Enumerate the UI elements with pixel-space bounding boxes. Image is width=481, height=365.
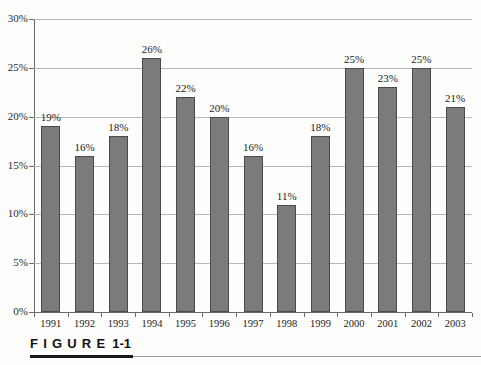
x-tick-mark (371, 313, 372, 317)
y-axis-tick-label: 5% (0, 257, 28, 268)
gridline (34, 312, 472, 313)
x-tick-mark (270, 313, 271, 317)
bar (41, 126, 60, 312)
x-tick-mark (202, 313, 203, 317)
figure-caption-number: 1-1 (112, 336, 131, 351)
bar (412, 68, 431, 312)
caption-rule-dark (30, 355, 133, 358)
figure-caption-word: FIGURE (30, 336, 110, 351)
x-tick-mark (135, 313, 136, 317)
y-tick-mark (29, 263, 34, 264)
figure-caption-block: FIGURE1-1 (0, 334, 481, 365)
gridline (34, 117, 472, 118)
figure-caption: FIGURE1-1 (30, 336, 131, 351)
bar-value-label: 16% (230, 141, 276, 153)
bar-value-label: 16% (62, 141, 108, 153)
y-tick-mark (29, 166, 34, 167)
bar-value-label: 18% (297, 121, 343, 133)
gridline (34, 19, 472, 20)
bar (142, 58, 161, 312)
x-tick-mark (438, 313, 439, 317)
x-tick-mark (101, 313, 102, 317)
bar (210, 117, 229, 312)
bar (446, 107, 465, 312)
bar-value-label: 20% (196, 102, 242, 114)
x-tick-mark (34, 313, 35, 317)
bar-value-label: 26% (129, 43, 175, 55)
y-tick-mark (29, 214, 34, 215)
bar (244, 156, 263, 312)
bar-value-label: 25% (398, 53, 444, 65)
y-axis-tick-label: 0% (0, 306, 28, 317)
y-axis-tick-label: 25% (0, 62, 28, 73)
x-axis-tick-label: 2003 (432, 318, 478, 330)
x-tick-mark (472, 313, 473, 317)
bar (311, 136, 330, 312)
y-tick-mark (29, 19, 34, 20)
bar-value-label: 25% (331, 53, 377, 65)
bar (345, 68, 364, 312)
x-tick-mark (405, 313, 406, 317)
bar-value-label: 22% (163, 82, 209, 94)
bar-value-label: 23% (365, 72, 411, 84)
y-axis-tick-label: 20% (0, 111, 28, 122)
bar-value-label: 18% (95, 121, 141, 133)
bar (176, 97, 195, 312)
bar (75, 156, 94, 312)
x-tick-mark (304, 313, 305, 317)
caption-rule-light (133, 356, 481, 357)
bar (277, 205, 296, 312)
y-axis-tick-label: 15% (0, 160, 28, 171)
y-axis-tick-label: 10% (0, 208, 28, 219)
gridline (34, 68, 472, 69)
y-tick-mark (29, 68, 34, 69)
x-tick-mark (169, 313, 170, 317)
y-axis-tick-label: 30% (0, 13, 28, 24)
x-tick-mark (236, 313, 237, 317)
bar (378, 87, 397, 312)
bar-value-label: 11% (264, 190, 310, 202)
figure-container: 0%5%10%15%20%25%30% 19%16%18%26%22%20%16… (0, 0, 481, 365)
bar-value-label: 21% (432, 92, 478, 104)
x-tick-mark (337, 313, 338, 317)
x-tick-mark (68, 313, 69, 317)
bar (109, 136, 128, 312)
bar-chart: 0%5%10%15%20%25%30% 19%16%18%26%22%20%16… (0, 0, 481, 332)
bar-value-label: 19% (28, 111, 74, 123)
